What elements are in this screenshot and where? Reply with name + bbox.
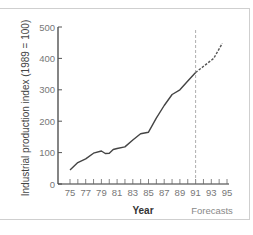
x-tick-label: 95 (222, 187, 233, 198)
forecasts-label: Forecasts (191, 205, 233, 216)
x-axis: 7577798183858789919395 (58, 179, 232, 198)
data-series (70, 43, 222, 170)
x-tick-label: 83 (128, 187, 139, 198)
actual-series-line (70, 73, 196, 170)
y-axis: 0100200300400500 (39, 22, 62, 190)
y-tick-label: 300 (39, 84, 55, 95)
forecast-series-line (196, 43, 223, 72)
x-tick-label: 79 (96, 187, 107, 198)
y-tick-label: 0 (50, 179, 55, 190)
x-tick-label: 77 (80, 187, 91, 198)
x-tick-label: 87 (159, 187, 170, 198)
x-tick-label: 75 (65, 187, 76, 198)
y-tick-label: 100 (39, 147, 55, 158)
y-tick-label: 400 (39, 53, 55, 64)
x-tick-label: 93 (206, 187, 217, 198)
y-tick-label: 200 (39, 116, 55, 127)
x-tick-label: 85 (143, 187, 154, 198)
x-tick-label: 81 (112, 187, 123, 198)
x-tick-label: 91 (190, 187, 201, 198)
y-axis-label: Industrial production index (1989 = 100) (20, 20, 31, 197)
x-axis-label: Year (132, 205, 153, 216)
x-tick-label: 89 (175, 187, 186, 198)
y-tick-label: 500 (39, 22, 55, 33)
line-chart: 0100200300400500 7577798183858789919395 … (0, 0, 253, 235)
